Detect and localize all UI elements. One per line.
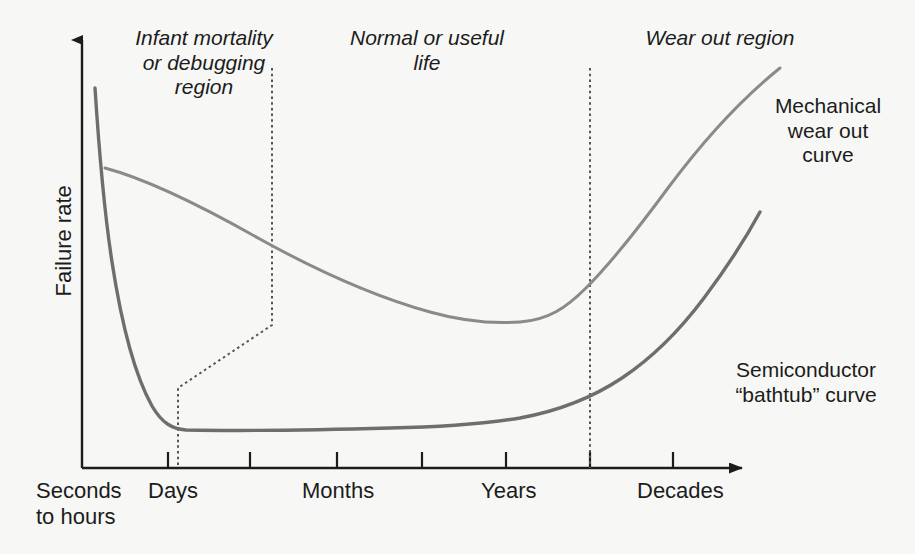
annotation-mechanical-wear-out-curve: Mechanical wear out curve [752, 94, 904, 168]
x-tick-label-seconds-to-hours: Seconds to hours [36, 478, 166, 529]
x-axis-ticks [168, 452, 673, 468]
bathtub-curve-figure: Failure rate Infant mortality or debuggi… [0, 0, 915, 554]
region-label-normal-life: Normal or useful life [316, 26, 538, 75]
annotation-semiconductor-bathtub-curve: Semiconductor “bathtub” curve [700, 358, 912, 407]
x-tick-label-years: Years [481, 478, 571, 504]
region-divider-infant-normal [178, 68, 272, 468]
mechanical-wear-out-curve [105, 68, 780, 323]
x-tick-label-days: Days [148, 478, 238, 504]
x-tick-label-decades: Decades [637, 478, 757, 504]
semiconductor-bathtub-curve [95, 88, 760, 430]
region-label-wear-out: Wear out region [620, 26, 820, 51]
x-tick-label-months: Months [302, 478, 412, 504]
region-label-infant-mortality: Infant mortality or debugging region [106, 26, 302, 100]
y-axis-label: Failure rate [51, 161, 77, 321]
